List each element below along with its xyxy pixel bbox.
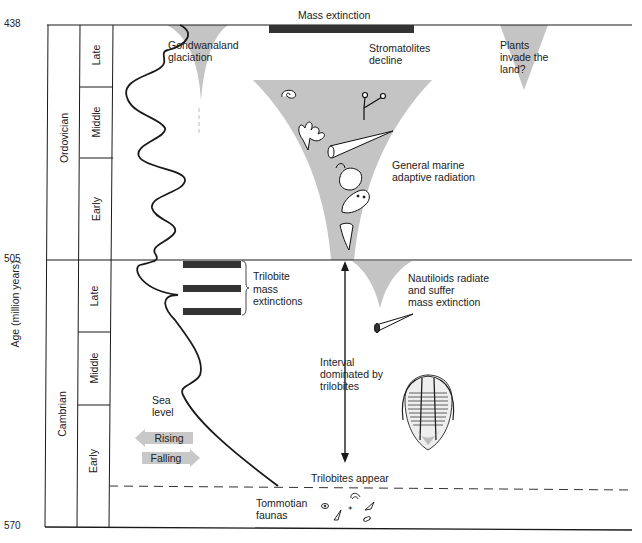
period-cambrian: Cambrian: [56, 379, 68, 449]
nautiloid-cone: [352, 261, 412, 308]
gondwana-label-line2: glaciation: [168, 51, 212, 63]
interval-label-line1: Interval: [320, 356, 354, 368]
interval-label-line2: dominated by: [320, 368, 383, 380]
tommotian-fauna-icons: *: [322, 493, 375, 522]
trilobites-appear-dashed-line: [109, 486, 632, 490]
stromatolites-label-line2: decline: [369, 54, 402, 66]
plants-label-line1: Plants: [500, 39, 529, 51]
trilobite-extinctions-label-line3: extinctions: [253, 295, 303, 307]
trilobite-extinction-bar-2: [183, 285, 241, 292]
tick-570: 570: [4, 520, 21, 531]
epoch-cambrian-late: Late: [88, 271, 100, 321]
epoch-cambrian-early: Early: [87, 436, 99, 486]
trilobite-illustration: [402, 375, 453, 450]
nautiloids-label-line3: mass extinction: [408, 296, 480, 308]
period-column-left: [45, 25, 48, 527]
radiation-label-line2: adaptive radiation: [392, 171, 475, 183]
trilobites-appear-label: Trilobites appear: [311, 472, 389, 484]
mass-extinction-label: Mass extinction: [298, 9, 370, 21]
falling-label: Falling: [142, 452, 190, 464]
interval-arrow-up-head: [341, 261, 349, 271]
y-axis-label: Age (million years): [9, 249, 21, 359]
trilobite-extinction-bar-3: [183, 308, 241, 315]
sea-level-label-line1: Sea: [152, 394, 171, 406]
line-570: [45, 527, 632, 530]
sea-level-label-line2: level: [152, 406, 174, 418]
nautiloid-shell-icon: [375, 314, 414, 333]
gondwana-label-line1: Gondwanaland: [168, 39, 239, 51]
epoch-ordovician-late: Late: [90, 30, 102, 80]
trilobite-extinctions-label-line2: mass: [253, 283, 278, 295]
radiation-label-line1: General marine: [392, 159, 464, 171]
mass-extinction-bar: [269, 25, 414, 33]
nautiloids-label-line1: Nautiloids radiate: [408, 272, 489, 284]
interval-label-line3: trilobites: [320, 380, 359, 392]
epoch-ordovician-middle: Middle: [90, 97, 102, 147]
tommotian-label-line2: faunas: [256, 509, 288, 521]
trilobite-extinction-brace: [242, 261, 249, 315]
svg-text:*: *: [348, 505, 353, 515]
trilobite-extinctions-label-line1: Trilobite: [253, 270, 290, 282]
trilobite-extinction-bar-1: [183, 261, 241, 268]
rising-label: Rising: [145, 432, 193, 444]
plants-label-line3: land?: [500, 63, 526, 75]
epoch-ordovician-early: Early: [90, 184, 102, 234]
tick-438: 438: [4, 18, 21, 29]
epoch-column-left: [77, 25, 80, 527]
interval-arrow-down-head: [341, 453, 349, 463]
plants-label-line2: invade the: [500, 51, 548, 63]
period-ordovician: Ordovician: [58, 103, 70, 173]
epoch-cambrian-middle: Middle: [88, 343, 100, 393]
tommotian-label-line1: Tommotian: [256, 497, 307, 509]
stromatolites-label-line1: Stromatolites: [369, 42, 430, 54]
nautiloids-label-line2: and suffer: [408, 284, 455, 296]
epoch-column-right: [109, 25, 113, 527]
sea-level-curve: [126, 25, 278, 486]
